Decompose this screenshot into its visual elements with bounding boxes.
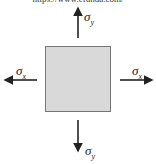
subscript: y [91, 152, 95, 161]
sigma-y-bottom-label: σy [85, 144, 95, 161]
arrows-layer [0, 0, 156, 164]
sigma-x-right-label: σx [132, 64, 142, 81]
sigma-y-top-label: σy [84, 10, 94, 27]
subscript: y [90, 18, 94, 27]
subscript: x [22, 72, 26, 81]
sigma-x-left-label: σx [16, 64, 26, 81]
subscript: x [138, 72, 142, 81]
